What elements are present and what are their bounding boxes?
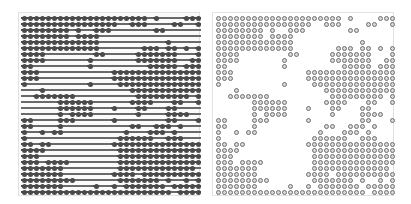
right-grid-panel: [212, 12, 394, 196]
ring-marker: [389, 189, 395, 195]
left-grid-panel: [18, 12, 200, 196]
right-ring-grid: [215, 15, 395, 195]
filled-marker: [195, 189, 201, 195]
left-marker-grid: [21, 15, 201, 195]
